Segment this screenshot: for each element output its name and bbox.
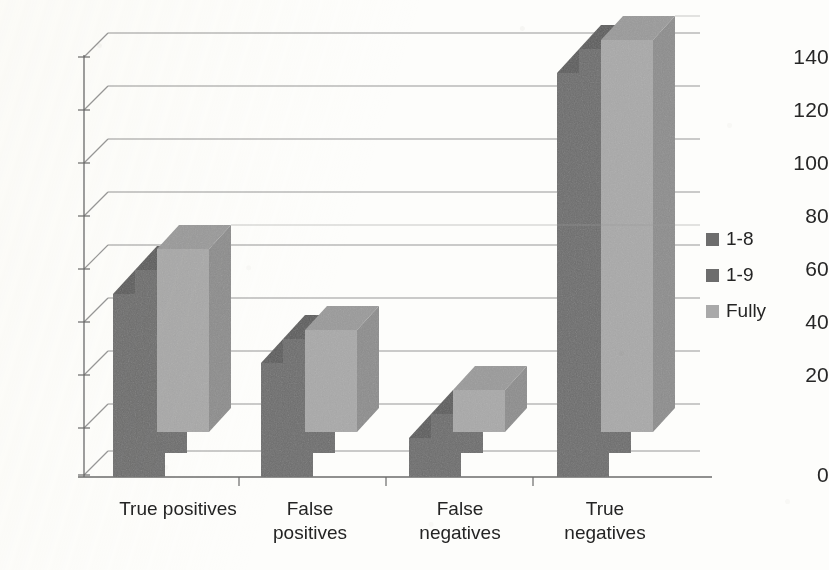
bar-false-negatives-fully	[453, 366, 527, 432]
legend-label-fully: Fully	[726, 300, 766, 322]
legend-swatch-1-9	[706, 269, 719, 282]
legend-swatch-1-8	[706, 233, 719, 246]
bar-group-false-negatives	[409, 366, 527, 477]
x-label-true-negatives: True negatives	[535, 497, 675, 545]
y-tick-120: 120	[771, 98, 829, 122]
bar-true-negatives-fully	[601, 16, 675, 432]
legend-label-1-9: 1-9	[726, 264, 753, 286]
chart-plot-area	[0, 0, 829, 570]
bar-chart: 140 120 100 80 60 40 20 0 True positives…	[0, 0, 829, 570]
bar-false-positives-fully	[305, 306, 379, 432]
y-tick-80: 80	[771, 204, 829, 228]
legend-item-1-9[interactable]: 1-9	[706, 260, 766, 290]
legend-label-1-8: 1-8	[726, 228, 753, 250]
bar-group-true-positives	[113, 225, 231, 477]
legend-item-fully[interactable]: Fully	[706, 296, 766, 326]
y-tick-140: 140	[771, 45, 829, 69]
y-tick-0: 0	[771, 463, 829, 487]
y-tick-100: 100	[771, 151, 829, 175]
chart-legend: 1-8 1-9 Fully	[706, 224, 766, 332]
bar-group-true-negatives	[557, 16, 675, 477]
bar-true-positives-fully	[157, 225, 231, 432]
y-tick-20: 20	[771, 363, 829, 387]
y-tick-60: 60	[771, 257, 829, 281]
y-tick-40: 40	[771, 310, 829, 334]
legend-swatch-fully	[706, 305, 719, 318]
x-label-false-positives: False positives	[240, 497, 380, 545]
legend-item-1-8[interactable]: 1-8	[706, 224, 766, 254]
x-label-false-negatives: False negatives	[390, 497, 530, 545]
